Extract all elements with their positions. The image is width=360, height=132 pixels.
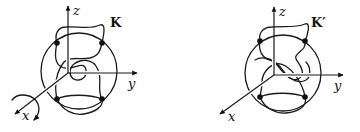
marked-point <box>99 96 105 102</box>
knot-diagram-figure: z y x K z y x K′ <box>0 0 360 132</box>
marked-point <box>257 94 263 100</box>
knot-strand <box>56 25 104 43</box>
knot-strand <box>57 95 102 99</box>
knot-strand <box>260 93 305 97</box>
x-axis-label: x <box>228 109 236 124</box>
marked-point <box>99 40 105 46</box>
y-axis-label: y <box>333 78 342 93</box>
knot-label-k: K <box>110 15 122 30</box>
marked-point <box>302 94 308 100</box>
y-axis-label: y <box>127 76 136 91</box>
marked-point <box>302 38 308 44</box>
marked-point <box>257 38 263 44</box>
x-axis-label: x <box>22 108 30 123</box>
z-axis-label: z <box>278 4 286 19</box>
panel-left-knot-k: z y x K <box>12 3 137 123</box>
knot-strand <box>57 99 102 114</box>
knot-label-k-prime: K′ <box>311 15 326 30</box>
panel-right-knot-k-prime: z y x K′ <box>220 4 343 124</box>
z-axis-label: z <box>72 3 80 18</box>
marked-point <box>54 40 60 46</box>
marked-point <box>54 96 60 102</box>
